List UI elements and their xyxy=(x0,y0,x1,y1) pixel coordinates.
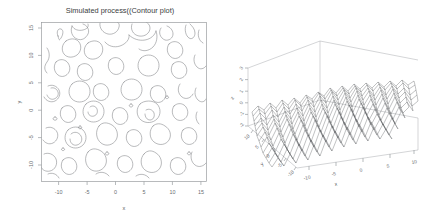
perspective-y-axis: 10 5 0 -5 -10 y xyxy=(243,130,296,178)
persp-xtick-label: -5 xyxy=(331,171,337,177)
contour-plot-svg: Simulated process((Contour plot) xyxy=(0,0,222,223)
contour-xtick-label: 10 xyxy=(169,189,175,195)
contour-ytick-label: 5 xyxy=(28,81,34,84)
persp-ztick-label: -1 xyxy=(239,110,246,116)
contour-xtick-label: 0 xyxy=(114,189,117,195)
persp-xtick-label: 10 xyxy=(411,159,418,165)
persp-z-axis-title: z xyxy=(229,95,236,101)
contour-x-axis-title: x xyxy=(123,205,126,211)
persp-xtick-label: 5 xyxy=(386,163,390,169)
contour-xtick-label: 15 xyxy=(198,189,204,195)
contour-xtick-label: -5 xyxy=(85,189,90,195)
contour-xtick-label: -10 xyxy=(55,189,63,195)
persp-ytick-label: 10 xyxy=(243,133,251,141)
persp-y-axis-title: y xyxy=(259,160,265,166)
figure-canvas: Simulated process((Contour plot) xyxy=(0,0,443,223)
contour-ytick-label: 15 xyxy=(28,25,34,31)
persp-xtick-label: 0 xyxy=(359,167,363,173)
persp-ytick-label: 5 xyxy=(254,144,260,150)
contour-xtick-label: 5 xyxy=(143,189,146,195)
contour-ytick-label: 0 xyxy=(28,109,34,112)
contour-plot-panel: Simulated process((Contour plot) xyxy=(0,0,222,223)
contour-line-group xyxy=(41,21,206,178)
persp-ztick-label: 0 xyxy=(239,100,245,105)
persp-ztick-label: 3 xyxy=(239,65,245,70)
contour-ytick-label: -10 xyxy=(28,161,34,169)
contour-ytick-label: -5 xyxy=(28,135,34,140)
contour-x-axis: -10 -5 0 5 10 15 x xyxy=(55,182,204,212)
perspective-plot-svg: 3 2 1 0 -1 -2 z 10 5 0 -5 -10 y xyxy=(222,0,443,223)
contour-ytick-label: 10 xyxy=(28,52,34,58)
persp-xtick-label: -10 xyxy=(303,175,311,181)
perspective-z-axis: 3 2 1 0 -1 -2 z xyxy=(229,65,248,128)
contour-y-axis-title: y xyxy=(16,100,22,103)
perspective-plot-panel: 3 2 1 0 -1 -2 z 10 5 0 -5 -10 y xyxy=(222,0,443,223)
persp-ztick-label: 1 xyxy=(239,89,245,94)
persp-x-axis-title: x xyxy=(334,180,338,186)
persp-ytick-label: -10 xyxy=(286,169,295,178)
contour-y-axis: 15 10 5 0 -5 -10 y xyxy=(16,25,42,169)
contour-plot-title: Simulated process((Contour plot) xyxy=(66,6,174,15)
persp-ztick-label: 2 xyxy=(239,77,245,82)
persp-ztick-label: -2 xyxy=(239,122,246,128)
persp-ytick-label: -5 xyxy=(276,162,283,169)
